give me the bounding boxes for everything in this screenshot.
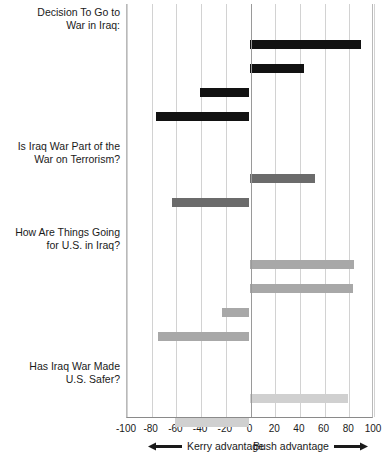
- zero-axis-line: [251, 4, 252, 417]
- chart-row: Approve somewhat (23%): [0, 56, 385, 80]
- x-tick-label: -80: [143, 423, 157, 434]
- bar: [250, 260, 355, 269]
- bar: [250, 174, 315, 183]
- group-heading: How Are Things Goingfor U.S. in Iraq?: [0, 226, 120, 252]
- group-heading-line: War on Terrorism?: [0, 153, 120, 166]
- chart-row: Disapprove somewhat (15%): [0, 80, 385, 104]
- kerry-advantage-caption: Kerry advantage: [148, 440, 264, 452]
- x-tick-label: 100: [365, 423, 382, 434]
- group-heading: Is Iraq War Part of theWar on Terrorism?: [0, 140, 120, 166]
- bar: [250, 40, 361, 49]
- x-tick-label: 20: [269, 423, 280, 434]
- bar: [250, 64, 304, 73]
- horizontal-diverging-bar-chart: Decision To Go toWar in Iraq:Approve str…: [0, 0, 385, 463]
- chart-row: Approve strongly (29%): [0, 32, 385, 56]
- group-heading-line: U.S. Safer?: [0, 373, 120, 386]
- bush-advantage-caption: Bush advantage: [253, 440, 368, 452]
- group-heading-line: for U.S. in Iraq?: [0, 239, 120, 252]
- chart-row: Yes (55%): [0, 166, 385, 190]
- chart-row: Very badly (33%): [0, 324, 385, 348]
- left-arrow-icon: [148, 442, 182, 451]
- right-arrow-icon: [334, 442, 368, 451]
- x-tick-label: 80: [343, 423, 354, 434]
- chart-row: Disapprove strongly (31%): [0, 104, 385, 128]
- bar: [200, 88, 249, 97]
- bar: [156, 112, 250, 121]
- group-heading-line: Decision To Go to: [0, 6, 120, 19]
- bar: [158, 332, 249, 341]
- chart-row: No (45%): [0, 190, 385, 214]
- group-heading-line: How Are Things Going: [0, 226, 120, 239]
- chart-row: Very well (11%): [0, 252, 385, 276]
- x-tick-label: 60: [318, 423, 329, 434]
- bar: [175, 418, 249, 427]
- bar: [250, 394, 349, 403]
- bar: [172, 198, 250, 207]
- group-heading: Has Iraq War MadeU.S. Safer?: [0, 360, 120, 386]
- x-tick-label: 40: [293, 423, 304, 434]
- chart-row: Somewhat well (34%): [0, 276, 385, 300]
- group-heading: Decision To Go toWar in Iraq:: [0, 6, 120, 32]
- chart-row: Yes (46%): [0, 386, 385, 410]
- bar: [250, 284, 354, 293]
- x-tick-label: -100: [116, 423, 136, 434]
- group-heading-line: War in Iraq:: [0, 19, 120, 32]
- chart-row: Somewhat badly (20%): [0, 300, 385, 324]
- group-heading-line: Is Iraq War Part of the: [0, 140, 120, 153]
- bush-advantage-label: Bush advantage: [253, 440, 329, 452]
- group-heading-line: Has Iraq War Made: [0, 360, 120, 373]
- bar: [222, 308, 249, 317]
